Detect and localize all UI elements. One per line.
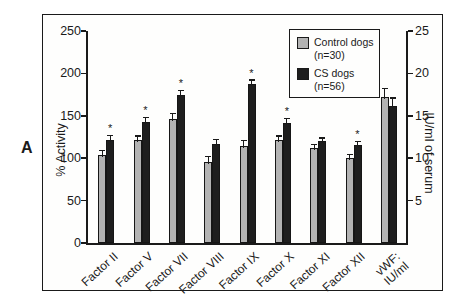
right-axis-tick	[408, 200, 413, 202]
left-axis-tick	[81, 242, 86, 244]
left-axis-tick	[81, 30, 86, 32]
error-bar-cap	[241, 140, 247, 141]
control-bar	[381, 97, 389, 243]
error-bar-whisker	[392, 98, 393, 108]
error-bar-cap	[382, 88, 388, 89]
error-bar-cap	[311, 144, 317, 145]
error-bar-cap	[276, 135, 282, 136]
significance-asterisk: *	[281, 106, 293, 117]
significance-asterisk: *	[352, 129, 364, 140]
error-bar-cap	[205, 156, 211, 157]
left-axis-tick-label: 250	[53, 25, 81, 38]
error-bar-cap	[99, 150, 105, 151]
bottom-axis	[86, 243, 407, 245]
left-axis-tick	[81, 200, 86, 202]
cs-bar	[389, 106, 397, 243]
control-bar	[240, 146, 248, 243]
error-bar-whisker	[349, 155, 350, 160]
error-bar-whisker	[322, 138, 323, 143]
cs-bar	[212, 144, 220, 243]
error-bar-whisker	[243, 140, 244, 148]
right-axis-tick-label: 15	[415, 110, 441, 123]
error-bar-cap	[107, 135, 113, 136]
error-bar-whisker	[357, 141, 358, 147]
significance-asterisk: *	[140, 105, 152, 116]
error-bar-cap	[135, 135, 141, 136]
error-bar-cap	[178, 90, 184, 91]
left-axis-tick	[81, 73, 86, 75]
control-bar	[134, 140, 142, 243]
error-bar-cap	[390, 97, 396, 98]
right-axis-tick-label: 20	[415, 67, 441, 80]
cs-dogs-swatch-icon	[297, 68, 309, 80]
left-axis-tick-label: 150	[53, 110, 81, 123]
control-bar	[204, 162, 212, 243]
control-bar	[346, 158, 354, 243]
left-axis-tick-label: 200	[53, 67, 81, 80]
left-axis-tick	[81, 115, 86, 117]
legend-count-cs: (n=56)	[314, 80, 345, 92]
right-axis-tick-label: 5	[415, 195, 441, 208]
right-axis	[406, 31, 408, 245]
error-bar-whisker	[172, 113, 173, 121]
error-bar-whisker	[216, 140, 217, 146]
cs-bar	[177, 95, 185, 243]
right-axis-tick	[408, 115, 413, 117]
legend-item-cs-dogs: CS dogs (n=56)	[297, 67, 374, 92]
significance-asterisk: *	[175, 78, 187, 89]
error-bar-whisker	[384, 89, 385, 99]
error-bar-cap	[347, 154, 353, 155]
cs-bar	[283, 123, 291, 243]
significance-asterisk: *	[246, 68, 258, 79]
cs-bar	[354, 145, 362, 243]
error-bar-whisker	[145, 117, 146, 123]
error-bar-cap	[284, 118, 290, 119]
legend: Control dogs (n=30) CS dogs (n=56)	[289, 29, 380, 98]
legend-label-control: Control dogs	[314, 36, 374, 48]
left-axis-tick-label: 0	[53, 237, 81, 250]
right-axis-tick-label: 25	[415, 25, 441, 38]
right-axis-tick	[408, 30, 413, 32]
error-bar-whisker	[314, 145, 315, 150]
cs-bar	[248, 84, 256, 243]
control-bar	[310, 148, 318, 243]
control-bar	[98, 155, 106, 243]
error-bar-cap	[143, 117, 149, 118]
control-bar	[169, 119, 177, 243]
error-bar-cap	[355, 141, 361, 142]
legend-item-control-dogs: Control dogs (n=30)	[297, 36, 374, 61]
cs-bar	[106, 140, 114, 243]
right-axis-tick	[408, 157, 413, 159]
error-bar-whisker	[102, 151, 103, 157]
error-bar-whisker	[180, 90, 181, 97]
significance-asterisk: *	[104, 123, 116, 134]
error-bar-cap	[319, 137, 325, 138]
left-axis-tick	[81, 157, 86, 159]
legend-count-control: (n=30)	[314, 49, 345, 61]
left-axis-tick-label: 50	[53, 195, 81, 208]
error-bar-whisker	[251, 80, 252, 86]
error-bar-cap	[213, 139, 219, 140]
control-dogs-swatch-icon	[297, 37, 309, 49]
control-bar	[275, 140, 283, 243]
error-bar-whisker	[110, 135, 111, 141]
right-axis-tick	[408, 73, 413, 75]
error-bar-whisker	[208, 157, 209, 164]
cs-bar	[142, 122, 150, 243]
left-axis-tick-label: 100	[53, 152, 81, 165]
cs-bar	[318, 141, 326, 243]
error-bar-cap	[249, 79, 255, 80]
error-bar-whisker	[137, 136, 138, 141]
error-bar-whisker	[278, 136, 279, 141]
chart-area: 050100150200250510152025*Factor II*Facto…	[0, 0, 466, 308]
right-axis-tick-label: 10	[415, 152, 441, 165]
error-bar-cap	[170, 113, 176, 114]
legend-label-cs: CS dogs	[314, 67, 354, 79]
error-bar-whisker	[286, 118, 287, 124]
left-axis	[86, 31, 88, 245]
